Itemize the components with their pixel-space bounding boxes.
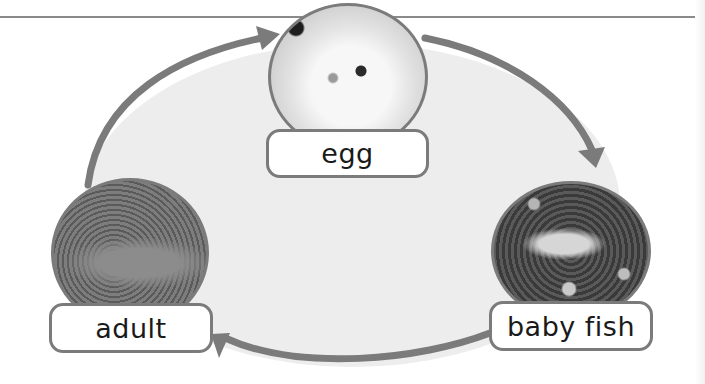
baby-fish-label: baby fish [489, 301, 653, 351]
egg-label: egg [266, 129, 429, 178]
adult-label: adult [49, 303, 213, 353]
baby-fish-photo [491, 181, 651, 321]
